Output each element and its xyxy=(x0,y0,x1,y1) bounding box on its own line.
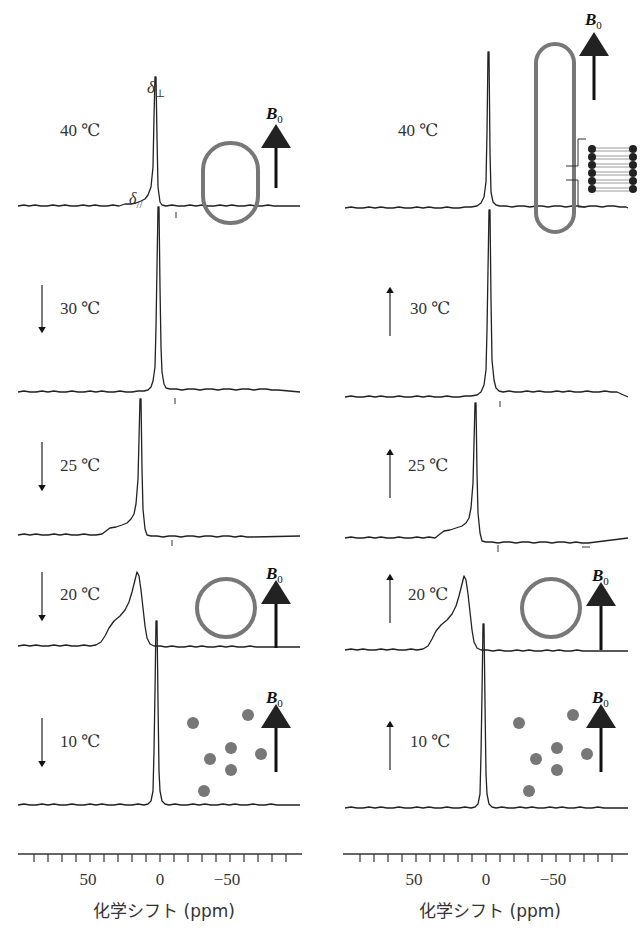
spectrum-right-25 xyxy=(345,403,628,543)
oblate-vesicle-shape xyxy=(203,143,258,223)
bilayer-inset xyxy=(566,139,637,207)
spectrum-left-10 xyxy=(18,621,300,805)
temp-right-40: 40 ℃ xyxy=(398,120,438,141)
tick-right-minus50: −50 xyxy=(540,870,567,890)
b0-label-right-10: B0 xyxy=(592,688,609,709)
b0-label-right-40: B0 xyxy=(585,10,602,31)
spherical-vesicle-right xyxy=(522,579,580,637)
micelles-left xyxy=(187,709,267,797)
elongated-vesicle-shape xyxy=(536,44,574,232)
x-axis-title-right: 化学シフト (ppm) xyxy=(419,897,561,922)
spherical-vesicle-left xyxy=(197,579,255,637)
temp-left-30: 30 ℃ xyxy=(60,298,100,319)
x-axis-ticks xyxy=(34,854,612,862)
micelles-right xyxy=(513,709,593,797)
nmr-figure: δ⊥ δ// 40 ℃ 30 ℃ 25 ℃ 20 ℃ 10 ℃ B0 B0 B0… xyxy=(0,0,642,930)
temp-left-25: 25 ℃ xyxy=(60,455,100,476)
temp-left-40: 40 ℃ xyxy=(60,120,100,141)
tick-left-0: 0 xyxy=(156,870,165,890)
temp-right-10: 10 ℃ xyxy=(410,731,450,752)
b0-label-right-20: B0 xyxy=(592,566,609,587)
temp-right-20: 20 ℃ xyxy=(408,584,448,605)
b0-label-left-10: B0 xyxy=(266,688,283,709)
b0-label-left-20: B0 xyxy=(266,564,283,585)
delta-parallel-label: δ// xyxy=(129,190,143,210)
temp-left-20: 20 ℃ xyxy=(60,584,100,605)
tick-right-0: 0 xyxy=(482,870,491,890)
tick-right-50: 50 xyxy=(406,870,423,890)
x-axis-title-left: 化学シフト (ppm) xyxy=(93,897,235,922)
delta-perp-label: δ⊥ xyxy=(147,78,165,100)
spectrum-right-20 xyxy=(345,576,628,651)
tick-left-50: 50 xyxy=(80,870,97,890)
temp-right-30: 30 ℃ xyxy=(410,298,450,319)
tick-left-minus50: −50 xyxy=(214,870,241,890)
temp-right-25: 25 ℃ xyxy=(408,455,448,476)
temp-left-10: 10 ℃ xyxy=(60,731,100,752)
b0-label-left-40: B0 xyxy=(266,104,283,125)
spectrum-right-30 xyxy=(345,210,628,397)
spectrum-right-40 xyxy=(345,52,628,208)
